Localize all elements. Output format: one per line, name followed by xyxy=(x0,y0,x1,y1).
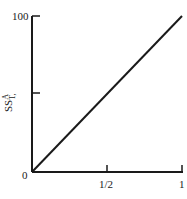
y-axis-label: SSAT, xyxy=(2,93,16,112)
x-tick-label-half: 1/2 xyxy=(99,179,113,190)
ylabel-main: SS xyxy=(2,100,14,112)
data-line xyxy=(32,16,182,172)
x-tick-label-one: 1 xyxy=(179,179,185,190)
ylabel-sub: T, xyxy=(9,93,16,99)
chart-plot xyxy=(0,0,187,199)
y-tick-label-100: 100 xyxy=(12,11,29,22)
origin-label: 0 xyxy=(22,170,28,181)
